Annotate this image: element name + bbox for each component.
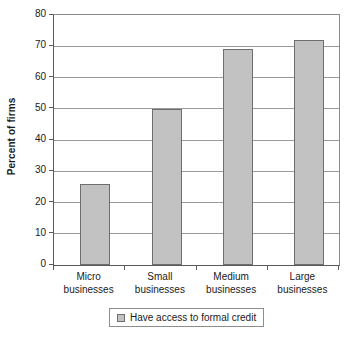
x-axis-category-labels: MicrobusinessesSmallbusinessesMediumbusi… [53, 270, 339, 302]
y-axis-tick-label: 80 [35, 9, 46, 19]
x-axis-category-label-line2: businesses [267, 283, 338, 296]
bar [294, 40, 324, 265]
legend: Have access to formal credit [109, 308, 264, 327]
x-axis-category-label-line2: businesses [124, 283, 195, 296]
bar [223, 49, 253, 265]
y-axis-tick-labels: 80706050403020100 [24, 14, 49, 264]
x-axis-category-label-line2: businesses [53, 283, 124, 296]
x-axis-category-label: Largebusinesses [267, 270, 338, 296]
bar [80, 184, 110, 265]
x-axis-category-label: Mediumbusinesses [196, 270, 267, 296]
x-axis-category-label-line1: Micro [53, 270, 124, 283]
x-axis-category-label: Microbusinesses [53, 270, 124, 296]
y-axis-tick-label: 50 [35, 103, 46, 113]
x-axis-category-label-line1: Medium [196, 270, 267, 283]
bar-chart: Percent of firms 80706050403020100 Micro… [0, 0, 351, 339]
bar [152, 109, 182, 265]
y-axis-tick-label: 30 [35, 165, 46, 175]
y-axis-tick-label: 70 [35, 40, 46, 50]
y-axis-tick-label: 40 [35, 134, 46, 144]
y-axis-title-text: Percent of firms [7, 97, 18, 175]
y-axis-tick-label: 20 [35, 197, 46, 207]
x-axis-category-label-line2: businesses [196, 283, 267, 296]
legend-swatch-icon [117, 314, 125, 322]
legend-label: Have access to formal credit [130, 313, 256, 323]
y-axis-tick-label: 10 [35, 228, 46, 238]
x-axis-category-label-line1: Large [267, 270, 338, 283]
plot-area [53, 14, 340, 266]
y-axis-tick-label: 60 [35, 72, 46, 82]
y-axis-title: Percent of firms [0, 0, 24, 272]
y-axis-tick-label: 0 [40, 259, 46, 269]
x-axis-category-label: Smallbusinesses [124, 270, 195, 296]
x-axis-category-label-line1: Small [124, 270, 195, 283]
bars-layer [54, 15, 339, 265]
